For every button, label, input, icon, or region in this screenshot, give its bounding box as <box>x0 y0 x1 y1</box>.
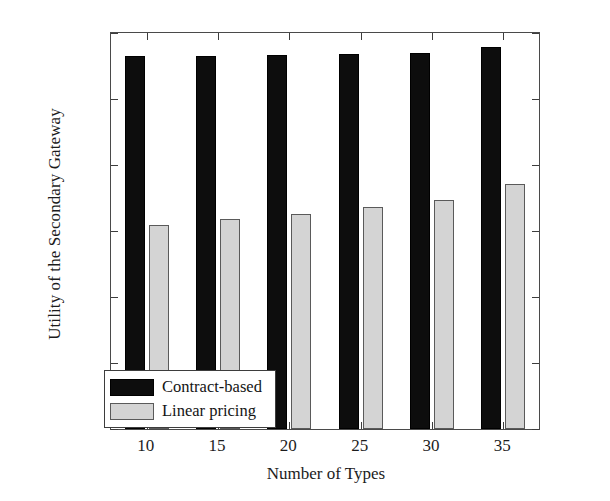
legend-swatch-light-icon <box>110 403 154 420</box>
bar-linear-pricing-35 <box>505 184 525 429</box>
y-tick-mark-right <box>532 363 539 364</box>
x-tick-label: 10 <box>116 436 176 456</box>
y-tick-mark-right <box>532 297 539 298</box>
x-tick-mark <box>361 422 362 429</box>
y-tick-mark <box>111 297 118 298</box>
x-tick-label: 15 <box>187 436 247 456</box>
x-tick-label: 25 <box>330 436 390 456</box>
y-tick-mark <box>111 33 118 34</box>
y-tick-mark <box>111 429 118 430</box>
y-axis-title: Utility of the Secondary Gateway <box>45 44 65 404</box>
legend-item-contract-based: Contract-based <box>110 375 270 399</box>
x-tick-mark-top <box>218 33 219 40</box>
chart-legend: Contract-based Linear pricing <box>104 370 276 428</box>
x-tick-label: 30 <box>401 436 461 456</box>
y-tick-mark <box>111 165 118 166</box>
y-tick-mark <box>111 363 118 364</box>
bar-contract-based-25 <box>339 54 359 429</box>
y-tick-mark-right <box>532 429 539 430</box>
x-tick-mark-top <box>432 33 433 40</box>
bar-linear-pricing-30 <box>434 200 454 429</box>
x-tick-mark-top <box>147 33 148 40</box>
bar-linear-pricing-20 <box>291 214 311 429</box>
bar-linear-pricing-25 <box>363 207 383 429</box>
x-tick-label: 35 <box>472 436 532 456</box>
x-tick-mark <box>289 422 290 429</box>
bar-contract-based-30 <box>410 53 430 429</box>
x-tick-label: 20 <box>258 436 318 456</box>
bar-chart-figure: Utility of the Secondary Gateway Number … <box>0 0 610 501</box>
y-tick-mark <box>111 99 118 100</box>
y-tick-mark-right <box>532 231 539 232</box>
legend-swatch-dark-icon <box>110 379 154 396</box>
x-tick-mark-top <box>289 33 290 40</box>
legend-label: Linear pricing <box>162 401 256 421</box>
y-tick-mark-right <box>532 99 539 100</box>
x-tick-mark <box>432 422 433 429</box>
legend-item-linear-pricing: Linear pricing <box>110 399 270 423</box>
x-tick-mark-top <box>361 33 362 40</box>
legend-label: Contract-based <box>162 377 262 397</box>
y-tick-mark <box>111 231 118 232</box>
x-tick-mark <box>503 422 504 429</box>
y-tick-mark-right <box>532 165 539 166</box>
x-tick-mark-top <box>503 33 504 40</box>
bar-contract-based-35 <box>481 47 501 429</box>
x-axis-title: Number of Types <box>110 464 542 484</box>
y-tick-mark-right <box>532 33 539 34</box>
